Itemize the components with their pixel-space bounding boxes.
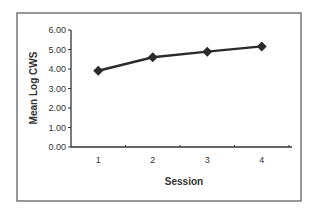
x-axis-title: Session — [165, 176, 203, 187]
x-tick-label: 3 — [205, 155, 210, 165]
x-tick-label: 4 — [259, 155, 264, 165]
y-tick-label: 2.00 — [48, 103, 66, 113]
y-axis-title: Mean Log CWS — [28, 51, 39, 124]
x-tick-label: 1 — [96, 155, 101, 165]
y-tick-label: 6.00 — [48, 25, 66, 35]
y-tick-label: 4.00 — [48, 64, 66, 74]
y-tick-label: 3.00 — [48, 84, 66, 94]
x-tick-label: 2 — [150, 155, 155, 165]
line-chart: 0.001.002.003.004.005.006.00 1234 Mean L… — [0, 0, 317, 213]
y-tick-label: 1.00 — [48, 123, 66, 133]
y-tick-label: 5.00 — [48, 45, 66, 55]
y-tick-label: 0.00 — [48, 142, 66, 152]
